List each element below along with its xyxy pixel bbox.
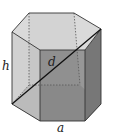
base-edge-label: a	[57, 121, 64, 133]
height-label: h	[2, 59, 10, 73]
hexagonal-prism-diagram: h d a	[0, 0, 115, 133]
diagonal-label: d	[48, 55, 56, 69]
